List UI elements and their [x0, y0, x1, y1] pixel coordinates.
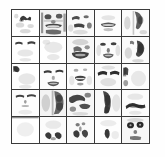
- basis-cell-14: [95, 64, 122, 90]
- basis-image-8: [67, 37, 94, 63]
- basis-cell-25: [122, 117, 149, 143]
- basis-image-20: [122, 90, 149, 116]
- basis-image-10: [122, 37, 149, 63]
- basis-image-14: [95, 64, 122, 90]
- basis-image-13: [67, 64, 94, 90]
- basis-cell-16: [12, 90, 39, 116]
- basis-image-22: [40, 117, 67, 143]
- basis-cell-12: [40, 64, 67, 90]
- basis-cell-24: [95, 117, 122, 143]
- basis-image-17: [40, 90, 67, 116]
- basis-cell-4: [95, 10, 122, 36]
- basis-image-9: [95, 37, 122, 63]
- basis-image-5: [122, 10, 149, 36]
- figure-caption-area: [11, 146, 150, 152]
- basis-image-4: [95, 10, 122, 36]
- basis-cell-15: [122, 64, 149, 90]
- basis-image-grid: [11, 9, 150, 144]
- basis-cell-23: [67, 117, 94, 143]
- basis-image-23: [67, 117, 94, 143]
- basis-cell-5: [122, 10, 149, 36]
- basis-cell-9: [95, 37, 122, 63]
- basis-cell-10: [122, 37, 149, 63]
- basis-image-15: [122, 64, 149, 90]
- basis-cell-2: [40, 10, 67, 36]
- basis-cell-6: [12, 37, 39, 63]
- basis-image-7: [40, 37, 67, 63]
- basis-cell-19: [95, 90, 122, 116]
- basis-cell-21: [12, 117, 39, 143]
- basis-cell-13: [67, 64, 94, 90]
- basis-cell-3: [67, 10, 94, 36]
- basis-cell-22: [40, 117, 67, 143]
- basis-image-18: [67, 90, 94, 116]
- basis-image-6: [12, 37, 39, 63]
- basis-image-16: [12, 90, 39, 116]
- basis-image-24: [95, 117, 122, 143]
- basis-cell-18: [67, 90, 94, 116]
- basis-cell-20: [122, 90, 149, 116]
- basis-image-1: [12, 10, 39, 36]
- basis-image-12: [40, 64, 67, 90]
- basis-image-19: [95, 90, 122, 116]
- figure-root: [0, 0, 165, 157]
- basis-image-11: [12, 64, 39, 90]
- basis-cell-17: [40, 90, 67, 116]
- basis-image-21: [12, 117, 39, 143]
- basis-cell-1: [12, 10, 39, 36]
- basis-cell-11: [12, 64, 39, 90]
- basis-image-2: [40, 10, 67, 36]
- basis-cell-8: [67, 37, 94, 63]
- basis-image-25: [122, 117, 149, 143]
- basis-image-3: [67, 10, 94, 36]
- basis-cell-7: [40, 37, 67, 63]
